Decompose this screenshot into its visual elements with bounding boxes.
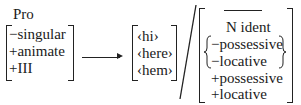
rewrite-arrow-icon <box>117 53 123 59</box>
context-right-bracket <box>287 8 293 103</box>
output-hem: ‹hem› <box>137 62 173 78</box>
context-blank-line <box>224 10 262 11</box>
right-brace-icon <box>277 35 287 69</box>
feature-plus-possessive: +possessive <box>211 70 283 86</box>
left-matrix-head: Pro <box>13 6 34 22</box>
feature-animate: +animate <box>9 43 65 59</box>
feature-minus-locative: −locative <box>211 53 267 69</box>
feature-singular: −singular <box>9 26 66 42</box>
output-hi: ‹hi› <box>137 28 159 44</box>
feature-third-person: +III <box>9 60 32 76</box>
left-matrix-right-bracket <box>68 25 74 81</box>
rewrite-arrow-shaft <box>82 57 120 58</box>
environment-slash-icon <box>176 0 200 105</box>
feature-minus-possessive: −possessive <box>211 36 283 52</box>
context-head-n-ident: N ident <box>226 19 271 35</box>
feature-plus-locative: +locative <box>211 86 267 102</box>
output-here: ‹here› <box>137 45 173 61</box>
